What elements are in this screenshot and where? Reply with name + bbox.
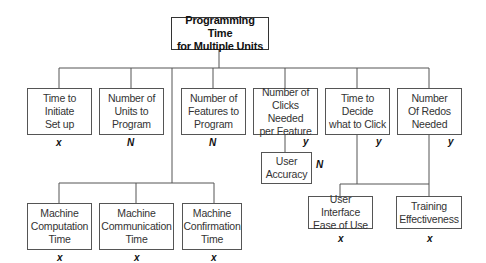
node-training: Training Effectiveness [396,196,462,229]
variable-label: N [127,137,134,148]
node-machine-communication: Machine Communication Time [99,203,174,250]
node-time-decide: Time to Decide what to Click [325,88,390,135]
node-machine-confirmation: Machine Confirmation Time [182,203,242,250]
node-machine-computation: Machine Computation Time [27,203,92,250]
node-clicks-needed: Number of Clicks Needed per Feature [253,88,318,135]
variable-label: y [303,136,309,147]
node-features-program: Number of Features to Program [181,88,246,135]
variable-label: y [448,136,454,147]
variable-label: x [134,252,140,263]
variable-label: N [316,159,323,170]
node-units-program: Number of Units to Program [99,88,164,135]
variable-label: x [56,137,62,148]
node-redos-needed: Number Of Redos Needed [397,88,462,135]
node-user-accuracy: User Accuracy [261,152,312,184]
variable-label: x [57,252,63,263]
node-time-initiate: Time to Initiate Set up [27,88,92,135]
variable-label: N [209,137,216,148]
node-ui-ease: User Interface Ease of Use [308,196,373,229]
root-node: Programming Time for Multiple Units [171,17,269,50]
variable-label: x [211,252,217,263]
variable-label: x [338,233,344,244]
variable-label: x [427,233,433,244]
variable-label: y [376,136,382,147]
